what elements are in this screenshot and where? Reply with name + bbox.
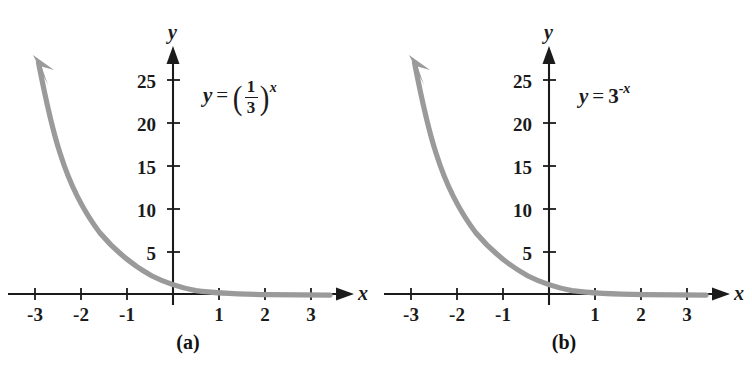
panel-caption-b: (b) [376, 332, 752, 352]
y-tick-label-20: 20 [484, 115, 532, 134]
x-tick-label-1: 1 [573, 305, 617, 324]
x-tick-label--2: -2 [435, 305, 479, 324]
x-tick-label--2: -2 [59, 305, 103, 324]
x-tick-label-3: 3 [289, 305, 333, 324]
right-paren: ) [259, 84, 269, 111]
panel-b: 25 20 15 10 5 -3 -2 -1 1 2 3 y x y=3-x (… [376, 0, 752, 377]
x-tick-label--1: -1 [105, 305, 149, 324]
y-tick-label-20: 20 [108, 115, 156, 134]
y-tick-label-15: 15 [484, 158, 532, 177]
x-axis-label: x [358, 283, 368, 303]
equation-lhs: y [203, 83, 212, 107]
equation-equals: = [216, 83, 228, 107]
y-tick-label-5: 5 [108, 244, 156, 263]
y-tick-label-15: 15 [108, 158, 156, 177]
equation-label-a: y=(13)x [203, 78, 277, 117]
equation-fraction-group: (13) [232, 78, 270, 117]
x-tick-label-1: 1 [197, 305, 241, 324]
x-axis-arrowhead [712, 288, 730, 301]
y-tick-label-10: 10 [484, 201, 532, 220]
panel-caption-a: (a) [0, 332, 376, 352]
x-tick-label-3: 3 [665, 305, 709, 324]
left-paren: ( [233, 84, 243, 111]
x-axis-arrowhead [336, 288, 354, 301]
x-tick-label--3: -3 [389, 305, 433, 324]
equation-exponent: x [270, 80, 277, 95]
x-tick-label-2: 2 [243, 305, 287, 324]
exponential-curve [415, 63, 707, 295]
equation-label-b: y=3-x [579, 84, 630, 107]
fraction: 13 [244, 78, 259, 117]
equation-exponent: x [623, 81, 630, 96]
equation-equals: = [592, 84, 604, 108]
y-tick-label-10: 10 [108, 201, 156, 220]
equation-base: 3 [608, 84, 619, 108]
exponential-curve [39, 63, 331, 295]
x-tick-label--3: -3 [13, 305, 57, 324]
x-tick-label--1: -1 [481, 305, 525, 324]
y-tick-label-25: 25 [484, 72, 532, 91]
panel-a: 25 20 15 10 5 -3 -2 -1 1 2 3 y x y=(13)x… [0, 0, 376, 377]
y-axis-label: y [168, 22, 177, 42]
y-axis-arrowhead [543, 46, 556, 64]
y-axis-arrowhead [167, 46, 180, 64]
y-axis-label: y [544, 22, 553, 42]
fraction-denominator: 3 [247, 99, 256, 117]
x-tick-label-2: 2 [619, 305, 663, 324]
fraction-numerator: 1 [247, 78, 256, 96]
y-tick-label-25: 25 [108, 72, 156, 91]
equation-lhs: y [579, 84, 588, 108]
x-axis-label: x [734, 283, 744, 303]
exponential-functions-figure: 25 20 15 10 5 -3 -2 -1 1 2 3 y x y=(13)x… [0, 0, 752, 377]
y-tick-label-5: 5 [484, 244, 532, 263]
